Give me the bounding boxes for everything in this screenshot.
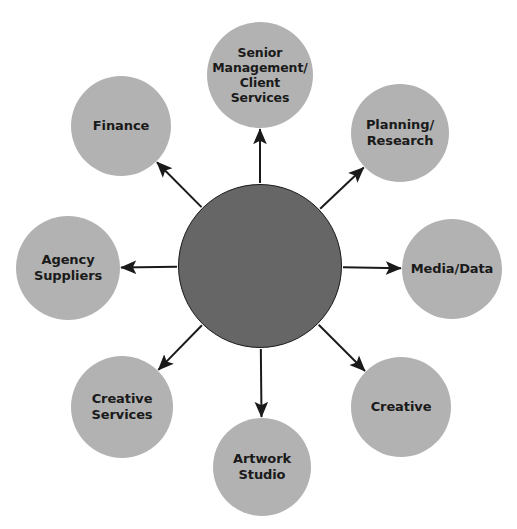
node-label-senior-management-client-services: Senior Management/ Client Services [207,45,313,106]
hub-circle[interactable] [178,184,342,348]
node-label-agency-suppliers: Agency Suppliers [30,252,106,284]
node-circle-creative-services[interactable]: Creative Services [71,356,173,458]
node-label-creative-services: Creative Services [88,391,157,423]
arrow-hub-to-planning-research [320,167,364,208]
node-label-planning-research: Planning/ Research [362,117,438,149]
node-circle-finance[interactable]: Finance [71,76,171,176]
diagram-canvas: Senior Management/ Client ServicesPlanni… [0,0,517,529]
arrow-hub-to-creative-services [158,325,202,370]
node-circle-creative[interactable]: Creative [351,357,451,457]
node-label-finance: Finance [89,118,153,134]
node-circle-planning-research[interactable]: Planning/ Research [351,84,449,182]
node-circle-media-data[interactable]: Media/Data [402,219,502,319]
node-label-media-data: Media/Data [407,261,498,277]
arrow-hub-to-media-data [343,267,401,268]
node-label-creative: Creative [367,399,436,415]
arrow-hub-to-creative [319,325,365,371]
node-circle-senior-management-client-services[interactable]: Senior Management/ Client Services [207,22,313,128]
arrow-hub-to-finance [157,162,202,207]
node-circle-artwork-studio[interactable]: Artwork Studio [213,418,311,516]
node-label-artwork-studio: Artwork Studio [229,451,295,483]
arrow-hub-to-artwork-studio [261,349,262,417]
node-circle-agency-suppliers[interactable]: Agency Suppliers [16,216,120,320]
arrow-hub-to-agency-suppliers [121,267,177,268]
